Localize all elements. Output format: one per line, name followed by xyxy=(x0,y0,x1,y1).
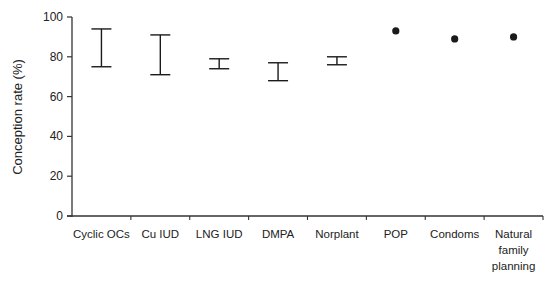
data-point xyxy=(392,27,399,34)
x-category-label: POP xyxy=(384,228,409,240)
y-tick-label: 40 xyxy=(50,129,64,143)
y-tick-label: 0 xyxy=(56,209,63,223)
data-point xyxy=(451,35,458,42)
range-bar xyxy=(150,35,170,75)
y-tick-label: 80 xyxy=(50,50,64,64)
y-axis-label: Conception rate (%) xyxy=(10,59,25,175)
x-category-label: DMPA xyxy=(262,228,295,240)
x-category-label: Cu IUD xyxy=(141,228,179,240)
range-bar xyxy=(209,59,229,69)
range-bar xyxy=(268,63,288,81)
y-tick-label: 20 xyxy=(50,169,64,183)
range-bar xyxy=(91,29,111,67)
x-axis: Cyclic OCsCu IUDLNG IUDDMPANorplantPOPCo… xyxy=(67,216,543,272)
x-category-label: Naturalfamilyplanning xyxy=(492,228,535,272)
x-category-label: Norplant xyxy=(315,228,359,240)
y-axis: 020406080100 xyxy=(43,10,72,223)
data-point xyxy=(510,33,517,40)
y-tick-label: 100 xyxy=(43,10,63,24)
range-bar xyxy=(327,57,347,65)
x-category-label: Cyclic OCs xyxy=(73,228,130,240)
x-category-label: LNG IUD xyxy=(196,228,243,240)
y-tick-label: 60 xyxy=(50,90,64,104)
conception-rate-chart: 020406080100 Cyclic OCsCu IUDLNG IUDDMPA… xyxy=(0,0,555,285)
data-series xyxy=(91,27,517,80)
x-category-label: Condoms xyxy=(430,228,479,240)
